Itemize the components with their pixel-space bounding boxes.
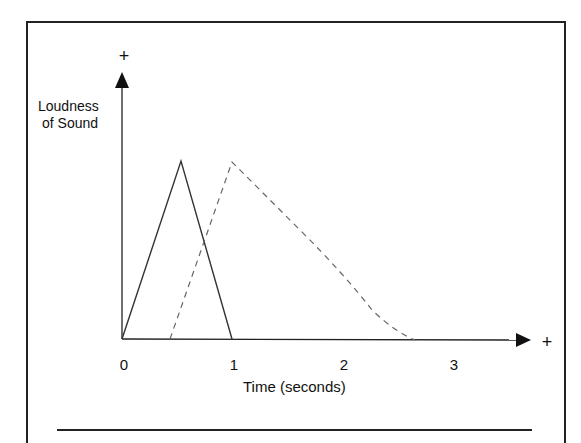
x-tick-3: 3 — [450, 356, 458, 373]
y-axis-title-line1: Loudness — [38, 98, 99, 114]
x-tick-0: 0 — [120, 356, 128, 373]
bottom-divider — [57, 429, 532, 431]
x-axis-plus-label: + — [542, 333, 553, 351]
x-axis-arrow-icon — [516, 333, 531, 347]
solid-series-line — [122, 161, 232, 339]
y-axis-title-line2: of Sound — [42, 115, 98, 131]
x-axis-title: Time (seconds) — [243, 379, 346, 395]
x-tick-1: 1 — [230, 356, 238, 373]
x-tick-2: 2 — [340, 356, 348, 373]
x-axis — [122, 339, 516, 340]
y-axis-plus-label: + — [119, 47, 130, 65]
y-axis-arrow-icon — [115, 72, 129, 88]
